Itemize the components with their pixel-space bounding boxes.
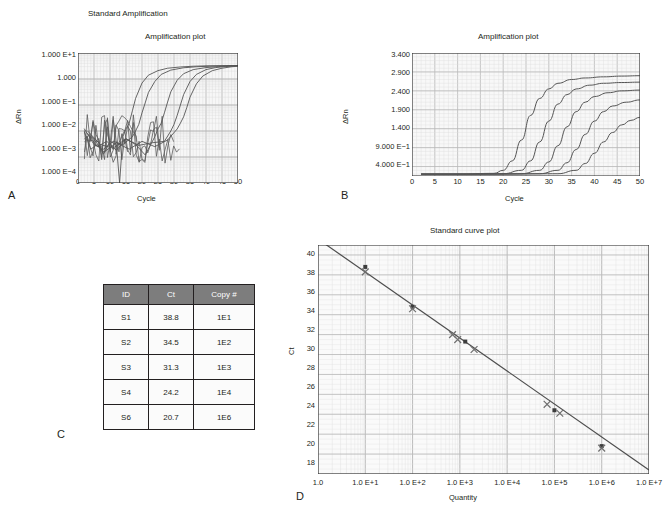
cell-copy: 1E4 [194,380,255,405]
panel-d-plot [318,245,649,474]
panel-d-ytick-7: 26 [307,382,315,391]
panel-d-ytick-11: 18 [307,458,315,467]
panel-d-ytick-1: 38 [307,268,315,277]
panel-a-letter: A [8,189,15,201]
panel-d-xtick-7: 1.0 E+7 [623,478,663,487]
cell-ct: 24.2 [149,380,194,405]
panel-d-xtick-5: 1.0 E+5 [529,478,581,487]
cell-ct: 34.5 [149,330,194,355]
table-header-row: ID Ct Copy # [104,285,255,305]
panel-b-ytick-3: 1.900 [391,105,410,114]
cell-id: S6 [104,405,149,430]
table-row: S620.71E6 [104,405,255,430]
figure-title: Standard Amplification [88,9,168,18]
panel-d-letter: D [296,490,304,502]
panel-a-ylabel: ΔRn [14,109,23,124]
cell-id: S4 [104,380,149,405]
panel-b-plot [412,53,640,176]
panel-b-xlabel: Cycle [505,194,524,203]
panel-b-ylabel: ΔRn [341,109,350,124]
table-row: S331.31E3 [104,355,255,380]
panel-a-ytick-4: 1.000 E−3 [42,144,76,153]
panel-d-ytick-10: 20 [307,439,315,448]
panel-d-xtick-6: 1.0 E+6 [576,478,628,487]
panel-d-xtick-2: 1.0 E+2 [387,478,439,487]
figure-root: Standard Amplification Amplification plo… [0,0,663,512]
cell-ct: 31.3 [149,355,194,380]
panel-d-ytick-2: 36 [307,287,315,296]
panel-a-ytick-2: 1.000 E−1 [42,97,76,106]
cell-id: S2 [104,330,149,355]
panel-b-ytick-4: 1.400 [391,123,410,132]
panel-d-ytick-9: 22 [307,420,315,429]
cell-copy: 1E3 [194,355,255,380]
cell-id: S3 [104,355,149,380]
panel-d-title: Standard curve plot [430,226,499,235]
panel-a-ytick-0: 1.000 E+1 [42,50,76,59]
panel-d-xtick-1: 1.0 E+1 [339,478,391,487]
panel-b-letter: B [341,189,348,201]
panel-b-ytick-1: 2.900 [391,68,410,77]
cell-copy: 1E2 [194,330,255,355]
panel-d-xtick-4: 1.0 E+4 [481,478,533,487]
panel-d-ytick-5: 30 [307,344,315,353]
panel-a-title: Amplification plot [145,32,205,41]
panel-d-ylabel: Ct [287,348,296,356]
panel-b-ytick-0: 3.400 [391,50,410,59]
panel-d-xtick-0: 1.0 [292,478,344,487]
panel-a-ytick-5: 1.000 E−4 [42,167,76,176]
panel-a-ytick-3: 1.000 E−2 [42,120,76,129]
standard-curve-table: ID Ct Copy # S138.81E1S234.51E2S331.31E3… [103,284,255,430]
panel-d-xtick-3: 1.0 E+3 [434,478,486,487]
table-row: S424.21E4 [104,380,255,405]
panel-a-plot [78,53,238,183]
cell-ct: 20.7 [149,405,194,430]
panel-a-ytick-1: 1.000 [57,73,76,82]
panel-d-ytick-6: 28 [307,363,315,372]
panel-d-ytick-8: 24 [307,401,315,410]
cell-ct: 38.8 [149,305,194,330]
cell-copy: 1E1 [194,305,255,330]
panel-b-ytick-6: 4.000 E−1 [376,160,410,169]
panel-b-ytick-5: 9.000 E−1 [376,142,410,151]
cell-id: S1 [104,305,149,330]
table-row: S234.51E2 [104,330,255,355]
panel-d-ytick-3: 34 [307,306,315,315]
table-header-id: ID [104,285,149,305]
panel-b-xtick-10: 50 [626,177,654,186]
panel-b-title: Amplification plot [478,32,538,41]
panel-d-xlabel: Quantity [449,493,477,502]
panel-c-letter: C [57,428,65,440]
cell-copy: 1E6 [194,405,255,430]
table-row: S138.81E1 [104,305,255,330]
panel-b-ytick-2: 2.400 [391,87,410,96]
panel-d-ytick-4: 32 [307,325,315,334]
table-header-ct: Ct [149,285,194,305]
table-header-copy: Copy # [194,285,255,305]
panel-d-ytick-0: 40 [307,249,315,258]
panel-a-xlabel: Cycle [137,194,156,203]
